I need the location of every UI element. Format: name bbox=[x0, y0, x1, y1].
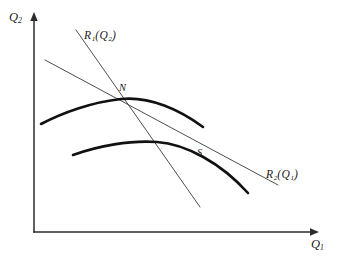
y-axis-label: Q2 bbox=[9, 11, 22, 25]
isoprofit-curve-lower bbox=[73, 142, 248, 193]
r1-arg-close: ) bbox=[112, 29, 116, 41]
x-axis-label: Q1 bbox=[311, 238, 324, 252]
reaction-function-2-label: R2(Q1) bbox=[266, 169, 299, 182]
figure-root: Q2 Q1 R1(Q2) R2(Q1) N S bbox=[0, 0, 341, 265]
r2-label-main: R bbox=[266, 168, 274, 180]
isoprofit-curve-upper bbox=[41, 99, 203, 127]
reaction-lines-group bbox=[45, 30, 278, 207]
diagram-canvas bbox=[0, 0, 341, 265]
r1-label-main: R bbox=[84, 29, 92, 41]
x-axis-arrowhead-icon bbox=[310, 228, 319, 235]
r2-arg-close: ) bbox=[294, 168, 298, 180]
y-axis-arrowhead-icon bbox=[30, 12, 37, 21]
axes-group bbox=[30, 12, 319, 236]
r2-arg-open: (Q bbox=[277, 168, 290, 180]
y-axis-label-main: Q bbox=[9, 10, 18, 24]
r1-arg-open: (Q bbox=[95, 29, 108, 41]
x-axis-label-subscript: 1 bbox=[320, 243, 324, 252]
reaction-function-1-label: R1(Q2) bbox=[84, 30, 117, 43]
isoprofit-curves-group bbox=[41, 99, 248, 193]
stackelberg-point-label: S bbox=[197, 148, 202, 159]
nash-equilibrium-point-label: N bbox=[119, 83, 126, 94]
reaction-line-r2-of-q1 bbox=[45, 60, 278, 185]
y-axis-label-subscript: 2 bbox=[18, 16, 22, 25]
reaction-line-r1-of-q2 bbox=[76, 30, 200, 207]
x-axis-label-main: Q bbox=[311, 237, 320, 251]
